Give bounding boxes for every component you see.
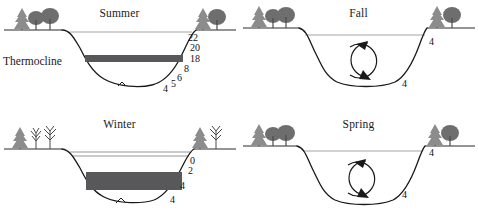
depth-label: 2 <box>188 165 193 176</box>
depth-label: 4 <box>180 180 185 191</box>
depth-label: 4 <box>402 78 407 89</box>
depth-label: 20 <box>190 42 200 53</box>
thermocline-band <box>85 55 183 62</box>
panel-fall: Fall 4 4 <box>239 0 478 111</box>
depth-label: 4 <box>429 36 434 47</box>
panel-title: Summer <box>0 7 239 19</box>
depth-label: 4 <box>163 83 168 94</box>
circulation-arrows <box>350 41 377 80</box>
depth-label: 4 <box>429 147 434 158</box>
depth-label: 8 <box>184 63 189 74</box>
panel-spring: Spring 4 4 <box>239 111 478 222</box>
circulation-arrows <box>348 159 375 198</box>
bare-tree-icon <box>31 128 41 149</box>
panel-winter: Winter 0 2 4 4 <box>0 111 239 222</box>
conifer-tree-icon <box>12 127 28 148</box>
panel-summer: Summer Thermocline 22 20 18 8 6 5 4 <box>0 0 239 111</box>
depth-label: 18 <box>190 53 200 64</box>
depth-label: 4 <box>402 189 407 200</box>
lake-stratification-figure: Summer Thermocline 22 20 18 8 6 5 4 <box>0 0 478 222</box>
depth-label: 4 <box>170 194 175 205</box>
conifer-tree-icon <box>192 127 208 148</box>
depth-label: 5 <box>171 78 176 89</box>
panel-title: Fall <box>239 7 478 19</box>
thermocline-label: Thermocline <box>3 55 62 67</box>
thermocline-band <box>86 172 182 190</box>
panel-title: Winter <box>0 118 239 130</box>
depth-label: 6 <box>177 72 182 83</box>
panel-title: Spring <box>239 118 478 130</box>
